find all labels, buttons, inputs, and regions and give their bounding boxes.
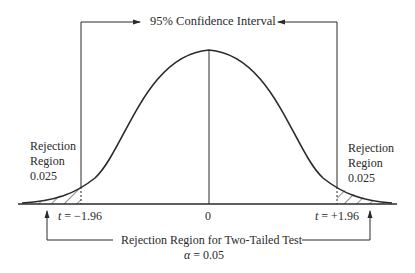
ci-title: 95% Confidence Interval xyxy=(150,14,276,28)
right-region-value: 0.025 xyxy=(348,171,375,185)
left-critical-label: t = −1.96 xyxy=(58,209,102,223)
left-region-line2: Region xyxy=(30,154,65,168)
left-region-value: 0.025 xyxy=(30,169,57,183)
right-critical-label: t = +1.96 xyxy=(315,209,359,223)
right-region-line1: Rejection xyxy=(348,141,394,155)
center-label: 0 xyxy=(205,209,211,223)
rejection-region-label: Rejection Region for Two-Tailed Test xyxy=(121,233,302,247)
ci-bracket-left xyxy=(81,22,140,187)
left-region-line1: Rejection xyxy=(30,139,76,153)
two-tailed-test-diagram: 95% Confidence Interval Rejection Region… xyxy=(0,0,415,273)
right-region-line2: Region xyxy=(348,156,383,170)
right-tail-hatch xyxy=(337,187,392,204)
left-tail-hatch xyxy=(22,187,81,204)
ci-bracket-right xyxy=(278,22,337,187)
alpha-label: α = 0.05 xyxy=(184,248,224,262)
